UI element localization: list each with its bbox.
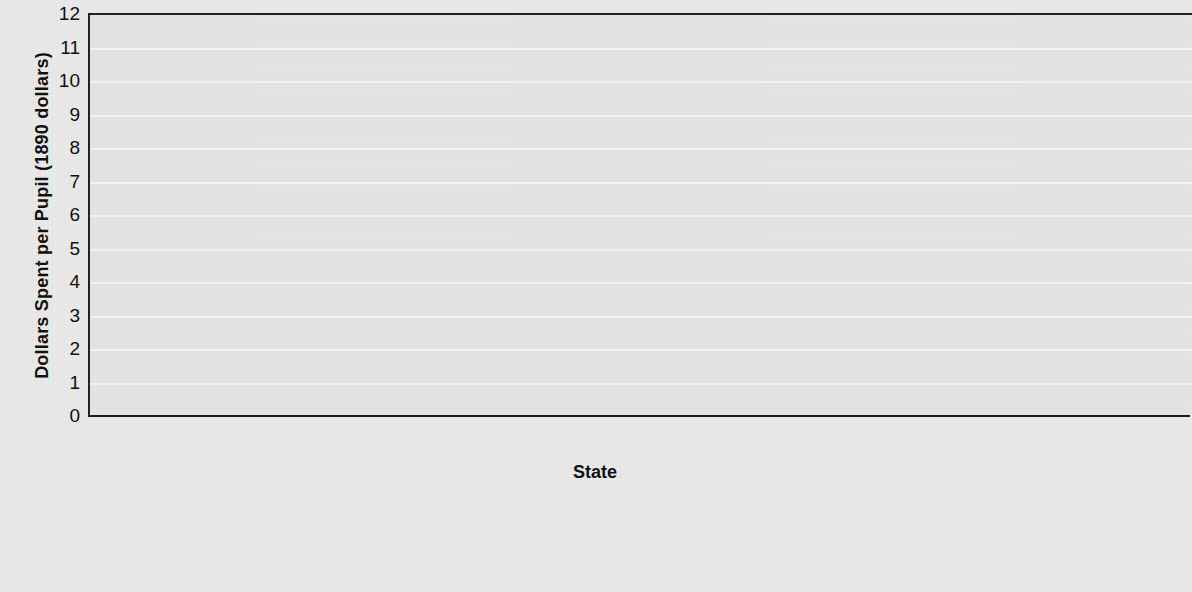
gridline bbox=[90, 282, 1192, 284]
gridline bbox=[90, 115, 1192, 117]
gridline bbox=[90, 215, 1192, 217]
y-tick-label: 1 bbox=[48, 372, 80, 391]
y-tick-label: 10 bbox=[48, 71, 80, 90]
y-tick-label: 6 bbox=[48, 205, 80, 224]
gridline bbox=[90, 148, 1192, 150]
x-axis-line bbox=[88, 415, 1190, 417]
gridline bbox=[90, 316, 1192, 318]
plot-area bbox=[88, 13, 1192, 417]
gridline bbox=[90, 349, 1192, 351]
y-tick-label: 7 bbox=[48, 171, 80, 190]
x-axis-title: State bbox=[0, 462, 1190, 483]
gridline bbox=[90, 182, 1192, 184]
y-tick-label: 4 bbox=[48, 272, 80, 291]
y-tick-label: 2 bbox=[48, 339, 80, 358]
y-tick-label: 12 bbox=[48, 4, 80, 23]
y-tick-label: 3 bbox=[48, 305, 80, 324]
y-tick-label: 11 bbox=[48, 37, 80, 56]
gridline bbox=[90, 249, 1192, 251]
gridline bbox=[90, 81, 1192, 83]
y-axis-tick-labels: 1211109876543210 bbox=[48, 0, 80, 425]
y-tick-label: 5 bbox=[48, 238, 80, 257]
gridline bbox=[90, 48, 1192, 50]
y-tick-label: 0 bbox=[48, 406, 80, 425]
y-tick-label: 9 bbox=[48, 104, 80, 123]
gridline bbox=[90, 383, 1192, 385]
y-tick-label: 8 bbox=[48, 138, 80, 157]
